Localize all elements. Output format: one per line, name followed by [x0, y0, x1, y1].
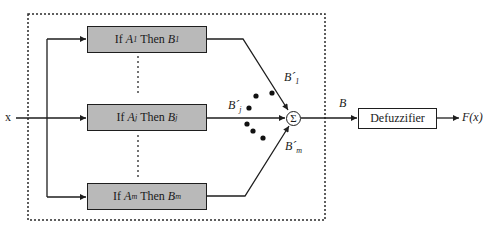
rule-j-connective: Then — [140, 110, 165, 125]
rule-1-antecedent-sub: 1 — [133, 35, 137, 44]
defuzzifier-label: Defuzzifier — [370, 111, 425, 126]
rule-1-output-line — [206, 39, 288, 110]
rule-output-ellipsis — [244, 90, 274, 140]
rule-m-connective: Then — [140, 189, 165, 204]
rule-1-antecedent: A — [126, 32, 133, 47]
rule-m-output-label: B´m — [285, 139, 302, 155]
rule-j-antecedent: A — [128, 110, 135, 125]
defuzzifier-box: Defuzzifier — [358, 108, 437, 129]
rule-m-prefix: If — [113, 189, 121, 204]
rule-m-output-line — [206, 126, 289, 196]
rule-m-antecedent: A — [124, 189, 131, 204]
rule-j-antecedent-sub: j — [135, 113, 137, 122]
aggregate-label: B — [339, 96, 346, 111]
rule-1-prefix: If — [115, 32, 123, 47]
rule-1-consequent-sub: 1 — [175, 35, 179, 44]
rule-j-consequent-sub: j — [175, 113, 177, 122]
rule-j-prefix: If — [117, 110, 125, 125]
sum-aggregator-icon: Σ — [286, 111, 301, 126]
rule-m-consequent-sub: m — [175, 192, 181, 201]
rule-box-1: If A1 Then B1 — [87, 26, 207, 53]
output-label: F(x) — [462, 110, 483, 125]
rule-1-output-label: B´1 — [284, 70, 299, 86]
rule-m-antecedent-sub: m — [131, 192, 137, 201]
input-label: x — [5, 110, 11, 125]
rule-j-output-label: B´j — [228, 98, 242, 114]
rule-m-consequent: B — [168, 189, 175, 204]
rule-1-connective: Then — [140, 32, 165, 47]
rule-1-consequent: B — [168, 32, 175, 47]
rule-box-m: If Am Then Bm — [87, 183, 207, 210]
rule-box-j: If Aj Then Bj — [87, 104, 207, 131]
